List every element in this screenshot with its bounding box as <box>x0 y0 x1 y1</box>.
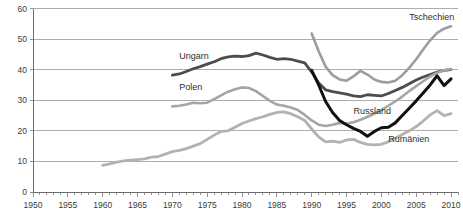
x-tick-label: 2000 <box>372 200 391 210</box>
chart-container: 0102030405060 19501955196019651970197519… <box>0 0 463 224</box>
y-tick-label: 30 <box>18 95 28 105</box>
x-tick-label: 1955 <box>58 200 77 210</box>
x-axis-tick-labels: 1950195519601965197019751980198519901995… <box>24 200 461 210</box>
y-tick-label: 20 <box>18 126 28 136</box>
y-axis-tick-labels: 0102030405060 <box>18 4 28 198</box>
data-series <box>103 26 451 165</box>
series-label-russland: Russland <box>353 106 391 116</box>
x-tick-label: 2005 <box>407 200 426 210</box>
x-tick-label: 1980 <box>233 200 252 210</box>
x-tick-label: 1970 <box>163 200 182 210</box>
x-tick-label: 1965 <box>128 200 147 210</box>
series-label-ungarn: Ungarn <box>179 51 209 61</box>
x-tick-label: 1995 <box>337 200 356 210</box>
series-line-polen <box>172 69 451 126</box>
x-axis-ticks <box>33 192 458 197</box>
x-tick-label: 1990 <box>302 200 321 210</box>
y-tick-label: 0 <box>22 187 27 197</box>
x-tick-label: 1975 <box>198 200 217 210</box>
y-tick-label: 10 <box>18 156 28 166</box>
x-tick-label: 1985 <box>267 200 286 210</box>
y-tick-label: 50 <box>18 34 28 44</box>
series-label-rumnien: Rumänien <box>388 134 429 144</box>
series-line-russland <box>312 70 451 136</box>
gridlines <box>30 9 459 193</box>
x-tick-label: 1950 <box>24 200 43 210</box>
line-chart: 0102030405060 19501955196019651970197519… <box>0 0 463 224</box>
x-tick-label: 1960 <box>93 200 112 210</box>
y-tick-label: 40 <box>18 65 28 75</box>
series-label-tschechien: Tschechien <box>409 12 454 22</box>
y-tick-label: 60 <box>18 4 28 14</box>
series-label-polen: Polen <box>179 82 202 92</box>
x-tick-label: 2010 <box>442 200 461 210</box>
